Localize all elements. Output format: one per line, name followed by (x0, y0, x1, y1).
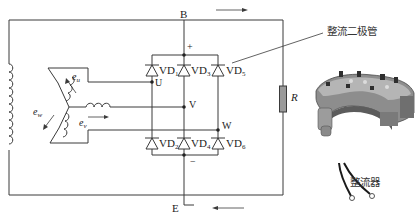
callout-leader-line (232, 33, 323, 63)
field-coil (9, 64, 13, 144)
diode-vd3-label: VD3 (191, 65, 210, 78)
ew-arrowhead-icon (43, 124, 48, 130)
diode-vd1-label: VD1 (159, 65, 178, 78)
diode-vd6-label: VD6 (226, 138, 245, 151)
node-v-label: V (189, 100, 196, 110)
junction-dot (182, 53, 186, 57)
node-e-label: E (172, 203, 179, 214)
diode-vd6-symbol (211, 138, 225, 149)
diode-vd1-symbol (145, 65, 159, 76)
rectifier-diode-callout: 整流二极管 (327, 26, 377, 37)
phase-v-coil (86, 103, 110, 107)
junction-dot-u (150, 80, 154, 84)
rectifier-caption: 整流器 (350, 177, 380, 188)
diode-vd2-symbol (145, 138, 159, 149)
diode-vd3-symbol (177, 65, 191, 76)
ew-arrow (45, 115, 54, 127)
node-w-label: W (222, 121, 231, 131)
load-resistor (280, 86, 287, 112)
junction-dot-w (216, 128, 220, 132)
load-resistor-label: R (291, 92, 298, 103)
diode-vd5-symbol (211, 65, 225, 76)
ev-arrowhead-icon (104, 115, 109, 119)
node-b-label: B (180, 9, 187, 20)
junction-dot (182, 153, 186, 157)
current-arrow-top-head-icon (242, 8, 248, 12)
diode-vd4-label: VD4 (191, 138, 210, 151)
emf-eu-label: eu (72, 72, 80, 84)
emf-ev-label: ev (79, 118, 87, 130)
diode-vd2-label: VD2 (159, 138, 178, 151)
diode-vd5-label: VD5 (226, 65, 245, 78)
phase-u-wire (48, 68, 152, 107)
current-arrow-bottom-head-icon (212, 206, 218, 210)
emf-ew-label: ew (33, 107, 42, 119)
diode-vd4-symbol (177, 138, 191, 149)
positive-terminal-label: + (187, 42, 193, 52)
junction-dot-v (182, 105, 186, 109)
node-u-label: U (155, 78, 162, 88)
outer-loop-wire-bottom (9, 112, 283, 195)
negative-terminal-label: − (190, 157, 196, 167)
